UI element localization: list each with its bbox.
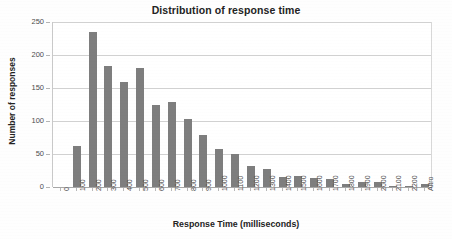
x-tick-label: 1900 (364, 175, 371, 191)
x-tick-label: 500 (142, 179, 149, 191)
x-tick-label: 1400 (285, 175, 292, 191)
plot-area (52, 22, 432, 187)
x-tick-mark (329, 188, 330, 191)
x-tick-mark (297, 188, 298, 191)
y-tick-mark (46, 55, 50, 56)
x-tick-label: 800 (190, 179, 197, 191)
x-tick-mark (377, 188, 378, 191)
y-tick-label: 100 (31, 117, 44, 125)
x-tick-label: 900 (205, 179, 212, 191)
y-tick-mark (46, 88, 50, 89)
y-tick-mark (46, 121, 50, 122)
x-tick-label: 0 (63, 187, 70, 191)
y-tick-label: 50 (36, 150, 44, 158)
chart-title: Distribution of response time (0, 4, 452, 17)
x-tick-mark (234, 188, 235, 191)
x-tick-mark (171, 188, 172, 191)
x-tick-mark (218, 188, 219, 191)
x-tick-mark (361, 188, 362, 191)
x-tick-mark (345, 188, 346, 191)
x-tick-label: 700 (174, 179, 181, 191)
x-tick-mark (155, 188, 156, 191)
bar (136, 68, 144, 187)
x-tick-mark (123, 188, 124, 191)
x-tick-mark (76, 188, 77, 191)
x-tick-mark (424, 188, 425, 191)
x-axis-title: Response Time (milliseconds) (30, 219, 442, 229)
x-tick-mark (408, 188, 409, 191)
x-tick-mark (202, 188, 203, 191)
x-tick-label: Altro (427, 177, 434, 191)
x-tick-mark (250, 188, 251, 191)
x-tick-label: 200 (95, 179, 102, 191)
x-tick-mark (107, 188, 108, 191)
bar-series (53, 22, 431, 187)
x-tick-mark (266, 188, 267, 191)
x-tick-mark (60, 188, 61, 191)
x-tick-label: 1500 (300, 175, 307, 191)
x-tick-label: 1100 (237, 176, 244, 191)
x-tick-label: 600 (158, 179, 165, 191)
bar (152, 105, 160, 188)
bar (89, 32, 97, 187)
x-tick-mark (92, 188, 93, 191)
bar (184, 119, 192, 187)
bar (104, 66, 112, 187)
bar (120, 82, 128, 187)
x-tick-label: 400 (126, 179, 133, 191)
y-tick-label: 0 (40, 183, 44, 191)
x-tick-label: 1000 (221, 175, 228, 191)
y-tick-mark (46, 187, 50, 188)
x-tick-label: 1600 (316, 175, 323, 191)
y-tick-label: 250 (31, 18, 44, 26)
y-axis-tick-labels: 050100150200250 (0, 0, 50, 239)
x-tick-label: 2000 (380, 175, 387, 191)
y-tick-label: 200 (31, 51, 44, 59)
y-tick-mark (46, 22, 50, 23)
x-tick-mark (187, 188, 188, 191)
x-tick-label: 300 (110, 179, 117, 191)
chart-container: Distribution of response time Number of … (0, 0, 452, 239)
y-tick-mark (46, 154, 50, 155)
x-tick-label: 1300 (269, 175, 276, 191)
x-tick-label: 2200 (411, 175, 418, 191)
bar (168, 102, 176, 187)
x-tick-label: 1800 (348, 175, 355, 191)
x-tick-label: 1200 (253, 175, 260, 191)
x-tick-label: 1700 (332, 175, 339, 191)
x-tick-mark (313, 188, 314, 191)
x-tick-mark (392, 188, 393, 191)
x-axis-tick-labels: 0100200300400500600700800900100011001200… (52, 188, 432, 220)
x-tick-mark (282, 188, 283, 191)
x-tick-label: 2100 (395, 175, 402, 191)
x-tick-mark (139, 188, 140, 191)
y-tick-label: 150 (31, 84, 44, 92)
x-tick-label: 100 (79, 179, 86, 191)
